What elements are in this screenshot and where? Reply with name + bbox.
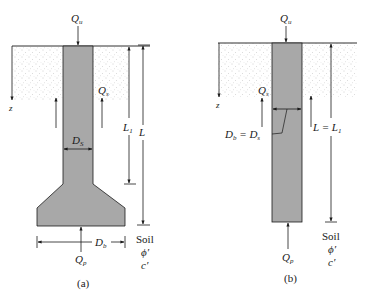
straight-pile — [272, 43, 302, 222]
figure-a: Qu z Qs DS L1 L Qp Db Soil ϕ′ c′ — [8, 12, 154, 290]
caption-b: (b) — [284, 272, 297, 285]
soil-label-b: Soil — [322, 230, 340, 242]
db-label-a: Db — [94, 236, 107, 250]
caption-a: (a) — [77, 277, 90, 290]
figure-b: Qu z Qs Db = Ds L = L1 Qp Soil ϕ′ c′ (b) — [215, 12, 357, 285]
z-label-b: z — [215, 100, 220, 110]
d-eq-label-b: Db = Ds — [224, 128, 260, 142]
soil-phi-a: ϕ′ — [141, 246, 150, 258]
l-eq-label-b: L = L1 — [312, 121, 341, 135]
qp-label-a: Qp — [75, 253, 87, 267]
qp-label-b: Qp — [282, 251, 294, 265]
pile-diagram: Qu z Qs DS L1 L Qp Db Soil ϕ′ c′ — [0, 0, 376, 303]
soil-label-a: Soil — [136, 233, 154, 245]
l-label-a: L — [138, 126, 145, 138]
soil-phi-b: ϕ′ — [328, 243, 337, 255]
soil-c-b: c′ — [328, 256, 336, 268]
z-label-a: z — [8, 103, 13, 113]
l1-label-a: L1 — [122, 121, 133, 135]
qu-label-b: Qu — [280, 12, 292, 26]
soil-c-a: c′ — [141, 259, 149, 271]
qu-label-a: Qu — [71, 12, 83, 26]
